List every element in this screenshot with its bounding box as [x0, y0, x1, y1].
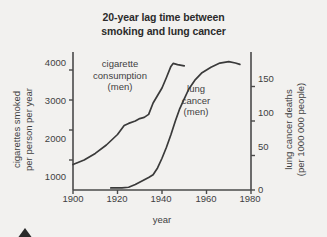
pointer-caret-icon: [17, 228, 33, 237]
series-line-cigarette-consumption: [73, 63, 184, 164]
plot-area: [0, 0, 327, 237]
axis-lines: [73, 52, 251, 190]
chart-figure: 20-year lag time between smoking and lun…: [0, 0, 327, 237]
series-line-lung-cancer: [111, 62, 240, 188]
